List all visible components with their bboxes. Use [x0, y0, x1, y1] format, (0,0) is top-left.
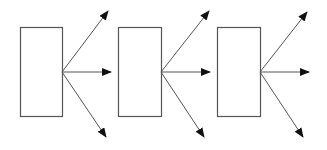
- arrow-up-icon: [260, 12, 307, 72]
- diagram-units: [21, 11, 310, 137]
- arrow-up-icon: [161, 11, 209, 72]
- arrow-down-icon: [260, 72, 303, 137]
- box-1: [21, 28, 63, 117]
- arrow-down-icon: [161, 72, 204, 137]
- box-2: [119, 28, 162, 117]
- box-3: [218, 28, 261, 117]
- diagram-unit-2: [119, 11, 211, 137]
- diagram-unit-3: [218, 12, 310, 137]
- diagram-unit-1: [21, 11, 112, 137]
- arrow-down-icon: [62, 72, 106, 137]
- diagram-canvas: [0, 0, 327, 150]
- arrow-up-icon: [62, 11, 108, 72]
